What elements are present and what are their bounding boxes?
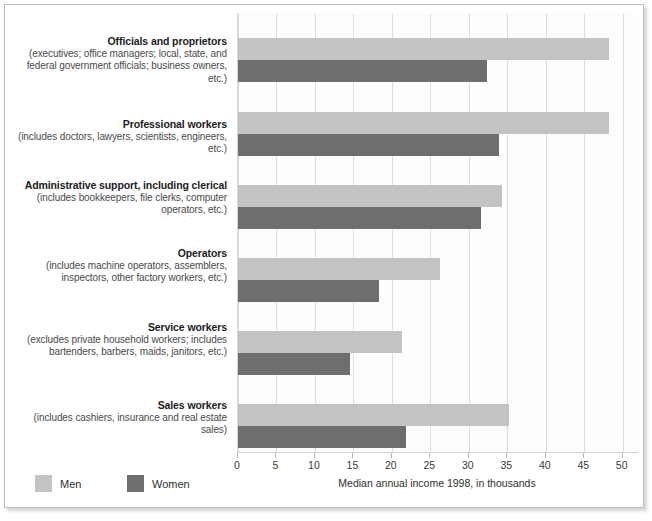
x-tick-label-35: 35 bbox=[491, 459, 521, 471]
x-tick-0 bbox=[237, 453, 238, 458]
x-tick-50 bbox=[622, 453, 623, 458]
category-title: Professional workers bbox=[13, 118, 227, 131]
legend-swatch-men-icon bbox=[35, 475, 52, 492]
category-subtitle: (includes cashiers, insurance and real e… bbox=[13, 412, 227, 437]
x-tick-25 bbox=[429, 453, 430, 458]
x-tick-label-25: 25 bbox=[414, 459, 444, 471]
x-axis-title: Median annual income 1998, in thousands bbox=[237, 477, 637, 489]
x-tick-label-40: 40 bbox=[530, 459, 560, 471]
x-tick-5 bbox=[275, 453, 276, 458]
gridline-40 bbox=[546, 13, 547, 453]
category-label-service: Service workers (excludes private househ… bbox=[13, 321, 227, 359]
gridline-45 bbox=[584, 13, 585, 453]
legend-swatch-women-icon bbox=[127, 475, 144, 492]
x-tick-label-15: 15 bbox=[337, 459, 367, 471]
category-label-sales: Sales workers (includes cashiers, insura… bbox=[13, 399, 227, 437]
bar-men-2 bbox=[238, 185, 502, 207]
x-axis: 05101520253035404550 bbox=[237, 453, 637, 477]
bar-women-5 bbox=[238, 426, 406, 448]
category-title: Service workers bbox=[13, 321, 227, 334]
category-label-professional: Professional workers (includes doctors, … bbox=[13, 118, 227, 156]
category-title: Sales workers bbox=[13, 399, 227, 412]
legend-item-men: Men bbox=[35, 475, 81, 492]
x-tick-label-5: 5 bbox=[260, 459, 290, 471]
x-tick-label-30: 30 bbox=[453, 459, 483, 471]
chart-screenshot: Officials and proprietors (executives; o… bbox=[0, 0, 652, 521]
x-tick-35 bbox=[506, 453, 507, 458]
x-tick-label-10: 10 bbox=[299, 459, 329, 471]
legend-label-men: Men bbox=[60, 478, 81, 490]
x-tick-15 bbox=[352, 453, 353, 458]
category-subtitle: (executives; office managers; local, sta… bbox=[13, 48, 227, 86]
category-subtitle: (includes bookkeepers, file clerks, comp… bbox=[13, 192, 227, 217]
bar-men-0 bbox=[238, 38, 609, 60]
bar-women-3 bbox=[238, 280, 379, 302]
category-label-officials: Officials and proprietors (executives; o… bbox=[13, 35, 227, 85]
bar-women-1 bbox=[238, 134, 499, 156]
category-subtitle: (includes doctors, lawyers, scientists, … bbox=[13, 131, 227, 156]
bar-women-0 bbox=[238, 60, 487, 82]
category-subtitle: (includes machine operators, assemblers,… bbox=[13, 260, 227, 285]
category-label-operators: Operators (includes machine operators, a… bbox=[13, 247, 227, 285]
category-label-administrative: Administrative support, including cleric… bbox=[13, 179, 227, 217]
gridline-50 bbox=[623, 13, 624, 453]
plot-area bbox=[237, 13, 638, 453]
category-subtitle: (excludes private household workers; inc… bbox=[13, 334, 227, 359]
bar-men-1 bbox=[238, 112, 609, 134]
x-tick-label-45: 45 bbox=[568, 459, 598, 471]
legend-label-women: Women bbox=[152, 478, 190, 490]
x-tick-label-20: 20 bbox=[376, 459, 406, 471]
bar-men-3 bbox=[238, 258, 440, 280]
x-tick-40 bbox=[545, 453, 546, 458]
x-tick-label-0: 0 bbox=[222, 459, 252, 471]
x-tick-45 bbox=[583, 453, 584, 458]
bar-women-4 bbox=[238, 353, 350, 375]
legend-item-women: Women bbox=[127, 475, 190, 492]
category-labels: Officials and proprietors (executives; o… bbox=[13, 13, 235, 453]
x-tick-20 bbox=[391, 453, 392, 458]
bar-women-2 bbox=[238, 207, 481, 229]
category-title: Administrative support, including cleric… bbox=[13, 179, 227, 192]
gridline-35 bbox=[507, 13, 508, 453]
x-tick-10 bbox=[314, 453, 315, 458]
bar-chart-figure: Officials and proprietors (executives; o… bbox=[5, 5, 647, 511]
category-title: Officials and proprietors bbox=[13, 35, 227, 48]
category-title: Operators bbox=[13, 247, 227, 260]
x-tick-30 bbox=[468, 453, 469, 458]
x-tick-label-50: 50 bbox=[607, 459, 637, 471]
bar-men-5 bbox=[238, 404, 509, 426]
bar-men-4 bbox=[238, 331, 402, 353]
